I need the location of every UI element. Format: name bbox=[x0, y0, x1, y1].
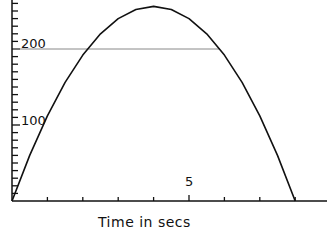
x-axis-title: Time in secs bbox=[97, 214, 191, 227]
y-axis-ticks bbox=[12, 3, 20, 193]
height-curve bbox=[12, 6, 295, 201]
x-axis-ticks bbox=[47, 195, 295, 201]
y-tick-label-100: 100 bbox=[21, 113, 46, 128]
x-tick-label-5: 5 bbox=[185, 174, 193, 189]
y-tick-label-200: 200 bbox=[21, 36, 46, 51]
projectile-chart: 200 100 5 Time in secs bbox=[0, 0, 327, 227]
